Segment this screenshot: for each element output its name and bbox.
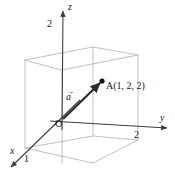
tick-label-z-2: 2 xyxy=(47,19,52,29)
axis-label-z: z xyxy=(68,2,72,12)
diagram-canvas xyxy=(0,0,175,174)
box-edge-bottom-front-left xyxy=(25,148,93,163)
tick-label-x-1: 1 xyxy=(24,154,29,164)
point-a-dot xyxy=(99,78,104,83)
box-edge-bottom-back-right xyxy=(93,136,138,140)
box-edge-bottom-front-right xyxy=(93,140,138,163)
box-top-face xyxy=(25,47,138,70)
origin-label: O xyxy=(55,119,62,129)
vector-label: → a xyxy=(66,92,71,102)
tick-label-y-2: 2 xyxy=(134,130,139,140)
reference-box xyxy=(25,47,138,163)
vector-diagram-figure: z y x 2 2 1 O → a A(1, 2, 2) xyxy=(0,0,175,174)
vector-arrow-accent: → xyxy=(66,88,71,96)
axis-line-y xyxy=(50,121,167,128)
axis-line-z xyxy=(62,11,63,130)
axis-label-y: y xyxy=(160,113,164,123)
point-a-label: A(1, 2, 2) xyxy=(106,81,145,91)
box-edge-bottom-back-left xyxy=(25,136,93,148)
vector-label-wrap: → a xyxy=(66,92,71,102)
axis-label-x: x xyxy=(10,146,14,156)
axis-line-x xyxy=(11,100,80,167)
